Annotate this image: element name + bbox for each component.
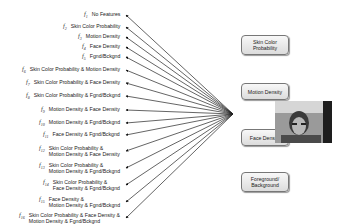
feature-id: f3 <box>78 33 82 42</box>
feature-box-motion: Motion Density <box>241 83 289 100</box>
feature-id: f1 <box>84 11 88 20</box>
feature-label-f12: f12Skin Color Probability &Motion Densit… <box>39 145 120 157</box>
feature-id: f11 <box>43 131 49 140</box>
feature-id: f13 <box>39 162 45 171</box>
arrow-to-f3 <box>126 37 233 114</box>
feature-id: f7 <box>26 79 30 88</box>
arrow-to-f6 <box>126 70 233 114</box>
feature-id: f8 <box>26 92 30 101</box>
arrow-to-f4 <box>126 47 233 114</box>
feature-label-f15: f15Face Density &Motion Density & Fgnd/B… <box>39 196 120 208</box>
feature-label-f14: f14Skin Color Probability &Face Density … <box>43 179 120 191</box>
feature-id: f4 <box>82 43 86 52</box>
feature-text: Skin Color Probability & Fgnd/Bckgnd <box>34 92 121 98</box>
arrow-to-f1 <box>126 15 233 114</box>
feature-label-f3: f3Motion Density <box>78 33 120 42</box>
feature-text: Face Density &Motion Density & Fgnd/Bckg… <box>49 196 120 208</box>
feature-id: f12 <box>39 145 45 154</box>
feature-box-label: Motion Density <box>248 89 282 95</box>
feature-label-f7: f7Skin Color Probability & Face Density <box>26 79 120 88</box>
feature-id: f16 <box>19 212 25 221</box>
feature-label-f10: f10Motion Density & Fgnd/Bckgnd <box>39 119 120 128</box>
arrow-to-f5 <box>126 57 233 114</box>
arrow-to-f2 <box>126 27 233 114</box>
feature-box-skin: Skin ColorProbability <box>241 35 289 55</box>
feature-text: Skin Color Probability &Motion Density &… <box>49 145 120 157</box>
arrow-to-f16 <box>126 114 233 218</box>
feature-label-f2: f2Skin Color Probability <box>63 23 120 32</box>
feature-label-f11: f11Face Density & Fgnd/Bckgnd <box>43 131 120 140</box>
feature-id: f14 <box>43 179 49 188</box>
feature-id: f5 <box>82 53 86 62</box>
feature-id: f15 <box>39 196 45 205</box>
arrow-to-f9 <box>126 110 233 114</box>
arrow-to-f10 <box>126 114 233 123</box>
arrow-to-f12 <box>126 114 233 151</box>
feature-text: Fgnd/Bckgnd <box>90 53 121 59</box>
feature-box-label: Foreground/Background <box>251 176 279 188</box>
feature-text: Skin Color Probability & Motion Density <box>30 66 120 72</box>
face-video-frame <box>275 101 332 143</box>
feature-box-label: Skin ColorProbability <box>253 39 277 51</box>
feature-text: Face Density & Fgnd/Bckgnd <box>53 131 120 137</box>
feature-id: f10 <box>39 119 45 128</box>
feature-label-f4: f4Face Density <box>82 43 120 52</box>
feature-text: Motion Density & Fgnd/Bckgnd <box>49 119 120 125</box>
feature-label-f6: f6Skin Color Probability & Motion Densit… <box>22 66 120 75</box>
feature-label-f1: f1No Features <box>84 11 120 20</box>
feature-text: Skin Color Probability & Face Density &M… <box>29 212 120 224</box>
feature-label-f5: f5Fgnd/Bckgnd <box>82 53 120 62</box>
feature-label-f9: f9Motion Density & Face Density <box>41 106 120 115</box>
feature-text: Face Density <box>90 43 120 49</box>
feature-label-f13: f13Skin Color Probability &Motion Densit… <box>39 162 120 174</box>
feature-text: Skin Color Probability &Face Density & F… <box>53 179 120 191</box>
feature-label-f16: f16Skin Color Probability & Face Density… <box>19 212 120 224</box>
feature-text: No Features <box>92 11 121 17</box>
feature-text: Motion Density & Face Density <box>49 106 120 112</box>
feature-text: Motion Density <box>86 33 120 39</box>
arrow-to-f13 <box>126 114 233 168</box>
feature-id: f9 <box>41 106 45 115</box>
feature-id: f6 <box>22 66 26 75</box>
arrow-to-f15 <box>126 114 233 202</box>
feature-id: f2 <box>63 23 67 32</box>
feature-text: Skin Color Probability & Face Density <box>34 79 120 85</box>
feature-text: Skin Color Probability &Motion Density &… <box>49 162 120 174</box>
feature-label-f8: f8Skin Color Probability & Fgnd/Bckgnd <box>26 92 120 101</box>
feature-box-fgbg: Foreground/Background <box>241 172 289 192</box>
feature-text: Skin Color Probability <box>71 23 121 29</box>
